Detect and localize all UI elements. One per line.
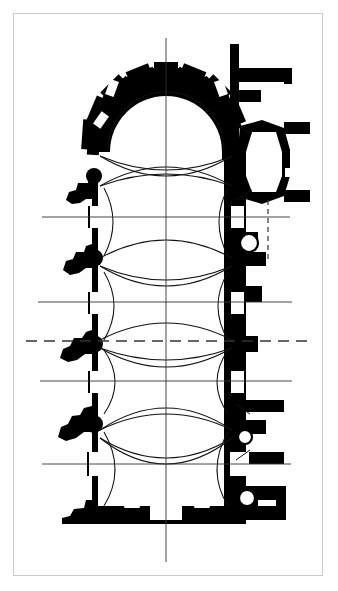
pier-ne-round xyxy=(240,234,258,252)
cathedral-floor-plan xyxy=(0,0,338,591)
west-nave-wall xyxy=(58,140,150,524)
pier-se-round-b xyxy=(239,490,255,506)
annex-east-chapel xyxy=(238,120,310,204)
west-front-wall xyxy=(98,506,236,524)
pier-se-round-a xyxy=(238,430,252,444)
plan-page: Cathedral Plan solid black = masonry wal… xyxy=(0,0,338,591)
survey-axes xyxy=(26,38,313,562)
